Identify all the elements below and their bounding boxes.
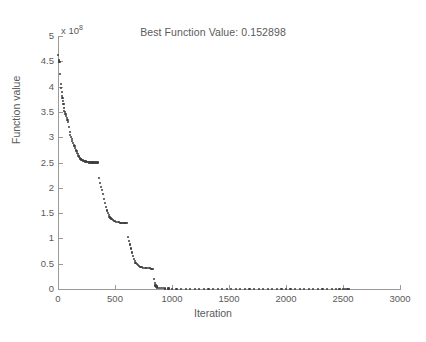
x-tick-mark <box>400 285 401 289</box>
data-point-marker <box>244 288 246 290</box>
data-point-marker <box>62 103 64 105</box>
x-tick-label: 2000 <box>275 293 296 304</box>
data-point-marker <box>67 121 69 123</box>
data-point-marker <box>248 288 250 290</box>
y-tick-label: 2.5 <box>41 158 54 167</box>
data-point-marker <box>226 288 228 290</box>
data-point-marker <box>61 97 63 99</box>
x-axis-title: Iteration <box>0 307 426 319</box>
y-axis-exponent-label: x 108 <box>61 24 83 36</box>
y-tick-label: 4.5 <box>41 56 54 65</box>
x-tick-label: 1500 <box>218 293 239 304</box>
data-point-marker <box>69 131 71 133</box>
data-point-marker <box>58 61 60 63</box>
x-tick-label: 0 <box>55 293 60 304</box>
data-point-marker <box>258 288 260 290</box>
x-tick-label: 3000 <box>389 293 410 304</box>
data-point-marker <box>63 107 65 109</box>
data-point-marker <box>235 288 237 290</box>
data-point-marker <box>338 288 340 290</box>
data-point-marker <box>185 288 187 290</box>
data-point-marker <box>152 268 154 270</box>
data-point-marker <box>153 278 155 280</box>
data-point-marker <box>105 206 107 208</box>
data-point-marker <box>101 189 103 191</box>
data-point-marker <box>100 186 102 188</box>
y-tick-label: 1 <box>49 233 54 242</box>
data-point-marker <box>97 161 99 163</box>
data-point-marker <box>267 288 269 290</box>
data-point-marker <box>348 288 350 290</box>
data-point-marker <box>128 240 130 242</box>
y-tick-label: 2 <box>49 183 54 192</box>
data-point-marker <box>99 182 101 184</box>
data-point-marker <box>132 255 134 257</box>
y-tick-mark <box>59 289 63 290</box>
data-point-marker <box>308 288 310 290</box>
data-point-marker <box>60 87 62 89</box>
y-tick-label: 0 <box>49 284 54 293</box>
data-point-marker <box>131 251 133 253</box>
y-tick-label: 3 <box>49 132 54 141</box>
data-point-marker <box>203 288 205 290</box>
data-point-marker <box>331 288 333 290</box>
x-tick-label: 500 <box>107 293 123 304</box>
data-point-marker <box>68 126 70 128</box>
y-exponent-prefix: x 10 <box>61 25 79 36</box>
y-axis-title: Function value <box>10 24 22 144</box>
data-point-marker <box>285 288 287 290</box>
matlab-figure-window: Best Function Value: 0.152898 x 108 Func… <box>0 0 426 342</box>
y-tick-label: 5 <box>49 31 54 40</box>
data-point-marker <box>103 198 105 200</box>
data-point-marker <box>217 288 219 290</box>
data-point-marker <box>57 54 59 56</box>
data-point-marker <box>129 243 131 245</box>
y-exponent-power: 8 <box>79 24 83 31</box>
data-point-marker <box>175 288 177 290</box>
data-point-marker <box>289 288 291 290</box>
data-point-marker <box>171 288 173 290</box>
data-point-marker <box>126 222 128 224</box>
data-point-marker <box>280 288 282 290</box>
data-point-marker <box>299 288 301 290</box>
plot-data-area <box>58 36 400 289</box>
y-tick-label: 1.5 <box>41 208 54 217</box>
data-point-marker <box>321 288 323 290</box>
data-point-marker <box>317 288 319 290</box>
x-tick-label: 1000 <box>161 293 182 304</box>
data-point-marker <box>59 73 61 75</box>
data-point-marker <box>164 287 166 289</box>
y-tick-label: 0.5 <box>41 259 54 268</box>
data-point-marker <box>62 100 64 102</box>
data-point-marker <box>61 91 63 93</box>
data-point-marker <box>104 202 106 204</box>
x-tick-label: 2500 <box>332 293 353 304</box>
data-point-marker <box>207 288 209 290</box>
data-point-marker <box>127 236 129 238</box>
data-point-marker <box>194 288 196 290</box>
data-point-marker <box>60 83 62 85</box>
data-point-marker <box>167 287 169 289</box>
data-point-marker <box>276 288 278 290</box>
data-point-marker <box>130 247 132 249</box>
y-tick-label: 4 <box>49 82 54 91</box>
data-point-marker <box>102 193 104 195</box>
data-point-marker <box>98 177 100 179</box>
y-tick-label: 3.5 <box>41 107 54 116</box>
